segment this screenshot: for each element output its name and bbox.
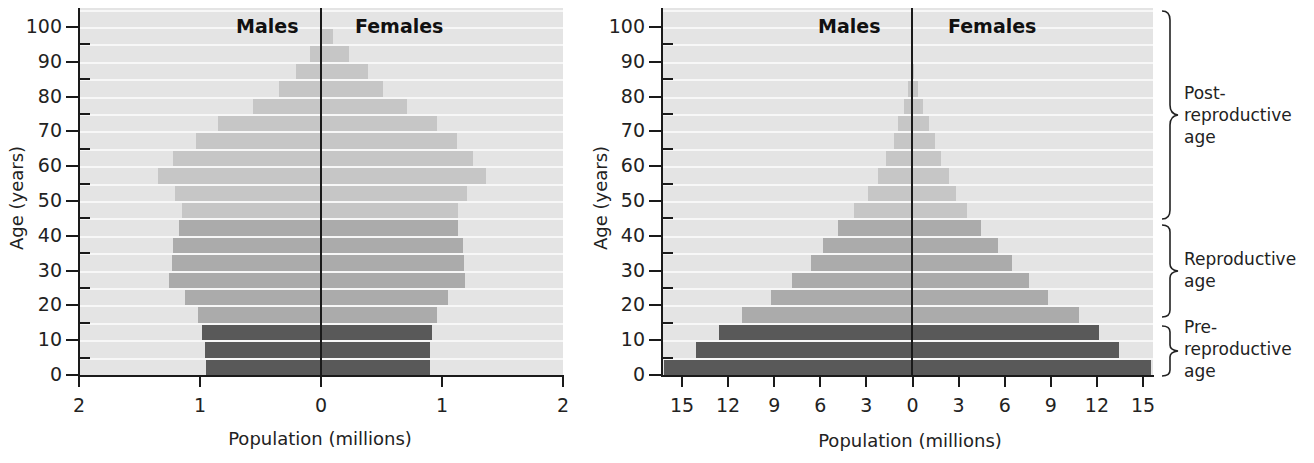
- y-tick: [649, 61, 661, 63]
- y-tick: [661, 183, 673, 185]
- x-tick-label: 15: [1123, 394, 1163, 416]
- y-tick: [661, 252, 673, 254]
- y-axis-title: Age (years): [590, 146, 611, 250]
- x-tick: [912, 375, 914, 387]
- female-bar: [912, 340, 1119, 357]
- y-tick: [661, 357, 673, 359]
- x-tick-label: 12: [1077, 394, 1117, 416]
- female-bar: [912, 131, 935, 148]
- male-bar: [886, 149, 912, 166]
- y-tick: [649, 96, 661, 98]
- y-tick-label: 20: [601, 293, 645, 315]
- female-bar: [912, 288, 1048, 305]
- female-bar: [912, 236, 998, 253]
- x-tick: [681, 375, 683, 387]
- x-tick: [727, 375, 729, 387]
- y-tick: [661, 78, 673, 80]
- y-tick: [661, 322, 673, 324]
- y-tick-label: 30: [601, 259, 645, 281]
- x-tick: [958, 375, 960, 387]
- pre-reproductive-bracket-icon: [1160, 325, 1182, 377]
- x-tick-label: 15: [662, 394, 702, 416]
- males-label: Males: [818, 15, 880, 37]
- y-tick-label: 10: [601, 328, 645, 350]
- male-bar: [838, 218, 912, 235]
- y-tick: [649, 339, 661, 341]
- x-tick-label: 3: [939, 394, 979, 416]
- age-band: [663, 44, 1153, 61]
- male-bar: [894, 131, 912, 148]
- center-axis-line: [911, 8, 913, 377]
- pyramid-chart-right: 0102030405060708090100 151296303691215 M…: [0, 0, 1314, 463]
- female-bar: [912, 184, 956, 201]
- x-tick: [865, 375, 867, 387]
- x-tick-label: 6: [985, 394, 1025, 416]
- x-tick: [1004, 375, 1006, 387]
- female-bar: [912, 323, 1099, 340]
- male-bar: [719, 323, 912, 340]
- age-band: [663, 27, 1153, 44]
- x-tick: [1096, 375, 1098, 387]
- age-band: [663, 62, 1153, 79]
- female-bar: [912, 271, 1029, 288]
- female-bar: [912, 305, 1079, 322]
- male-bar: [742, 305, 912, 322]
- female-bar: [912, 201, 967, 218]
- female-bar: [912, 114, 929, 131]
- female-bar: [912, 149, 941, 166]
- x-tick-label: 3: [846, 394, 886, 416]
- male-bar: [878, 166, 912, 183]
- x-tick-label: 9: [754, 394, 794, 416]
- y-tick: [649, 200, 661, 202]
- post-reproductive-bracket-icon: [1160, 10, 1182, 220]
- x-axis-title: Population (millions): [760, 430, 1060, 451]
- reproductive-bracket-icon: [1160, 224, 1182, 318]
- y-tick-label: 70: [601, 119, 645, 141]
- x-tick-label: 9: [1031, 394, 1071, 416]
- female-bar: [912, 218, 981, 235]
- male-bar: [898, 114, 912, 131]
- age-band: [663, 10, 1153, 27]
- y-tick: [649, 130, 661, 132]
- x-tick-label: 12: [708, 394, 748, 416]
- y-tick: [649, 165, 661, 167]
- y-tick: [649, 304, 661, 306]
- y-tick: [661, 217, 673, 219]
- y-tick: [649, 374, 661, 376]
- reproductive-label: Reproductive age: [1184, 248, 1296, 292]
- x-tick: [773, 375, 775, 387]
- y-tick-label: 80: [601, 85, 645, 107]
- y-tick: [649, 235, 661, 237]
- y-tick: [649, 270, 661, 272]
- x-axis: [661, 375, 1154, 377]
- plot-area: [663, 8, 1153, 375]
- y-tick: [649, 26, 661, 28]
- x-tick: [819, 375, 821, 387]
- female-bar: [912, 166, 949, 183]
- y-tick: [661, 148, 673, 150]
- female-bar: [912, 97, 923, 114]
- male-bar: [664, 358, 912, 375]
- y-tick-label: 90: [601, 50, 645, 72]
- male-bar: [771, 288, 912, 305]
- male-bar: [696, 340, 912, 357]
- male-bar: [823, 236, 912, 253]
- post-reproductive-label: Post- reproductive age: [1184, 82, 1292, 148]
- y-tick-label: 100: [601, 15, 645, 37]
- male-bar: [811, 253, 912, 270]
- male-bar: [792, 271, 912, 288]
- female-bar: [912, 358, 1151, 375]
- y-tick: [661, 287, 673, 289]
- x-tick: [1050, 375, 1052, 387]
- pre-reproductive-label: Pre- reproductive age: [1184, 316, 1292, 382]
- female-bar: [912, 253, 1012, 270]
- male-bar: [854, 201, 912, 218]
- y-tick: [661, 113, 673, 115]
- x-tick: [1142, 375, 1144, 387]
- y-tick: [661, 43, 673, 45]
- y-tick-label: 0: [601, 363, 645, 385]
- male-bar: [868, 184, 912, 201]
- x-tick-label: 6: [800, 394, 840, 416]
- females-label: Females: [948, 15, 1036, 37]
- x-tick-label: 0: [893, 394, 933, 416]
